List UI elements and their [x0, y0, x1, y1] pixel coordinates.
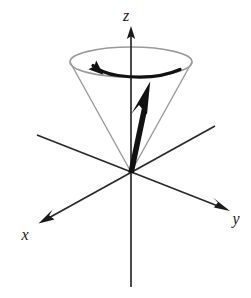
cone-left-edge — [70, 62, 131, 172]
vector-arrowhead — [131, 82, 150, 115]
vector-shaft — [131, 109, 145, 173]
z-axis-label: z — [122, 7, 130, 24]
y-axis-label: y — [230, 210, 240, 228]
x-axis-label: x — [20, 226, 28, 243]
x-axis — [39, 126, 216, 224]
angular-momentum-vector — [131, 82, 150, 174]
x-axis-line — [45, 126, 215, 220]
figure-canvas: z x y — [0, 0, 251, 298]
precession-cone-figure: z x y — [0, 0, 251, 298]
